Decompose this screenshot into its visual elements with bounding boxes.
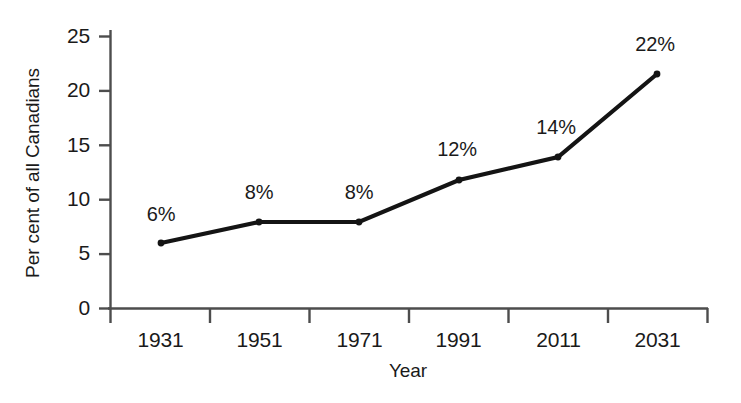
data-point-1971 (356, 219, 363, 226)
x-tick-label-2011: 2011 (509, 328, 608, 352)
data-line-series-1 (161, 74, 657, 243)
data-point-1931 (158, 240, 165, 247)
x-tick-label-1971: 1971 (310, 328, 409, 352)
y-axis-ticks (99, 37, 110, 309)
data-label-1991: 12% (417, 138, 497, 161)
data-label-1951: 8% (219, 181, 299, 204)
data-point-1951 (256, 219, 263, 226)
x-tick-label-1931: 1931 (111, 328, 210, 352)
data-point-2011 (555, 154, 562, 161)
y-axis-title: Per cent of all Canadians (22, 38, 44, 308)
data-label-1931: 6% (121, 203, 201, 226)
data-label-2031: 22% (615, 33, 695, 56)
x-tick-label-1991: 1991 (409, 328, 508, 352)
data-point-2031 (654, 71, 661, 78)
x-axis-ticks (111, 308, 708, 323)
x-tick-label-1951: 1951 (210, 328, 309, 352)
x-axis-title: Year (358, 360, 458, 382)
data-label-2011: 14% (516, 116, 596, 139)
data-point-1991 (456, 177, 463, 184)
data-point-markers (158, 71, 661, 247)
x-tick-label-2031: 2031 (608, 328, 707, 352)
data-label-1971: 8% (319, 181, 399, 204)
chart-canvas: 25 20 15 10 5 0 1931 1951 1971 1991 2011… (0, 0, 741, 403)
